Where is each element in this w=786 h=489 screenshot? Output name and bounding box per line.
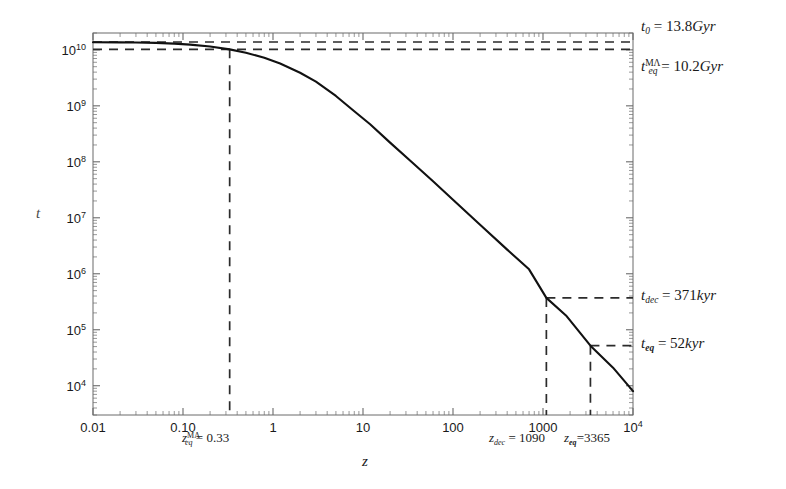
annotation-t0-unit: Gyr: [692, 18, 715, 34]
annotation-z-dec: zdec = 1090: [489, 431, 545, 447]
annotation-z-eq-mlambda: zMΛeq = 0.33: [182, 431, 229, 447]
time-redshift-curve: [93, 42, 633, 391]
annotation-t-dec-subscript: dec: [645, 295, 658, 305]
annotation-z-eq-subscript: eq: [569, 438, 577, 447]
annotation-z-eq-mlambda-value: 0.33: [206, 430, 229, 445]
annotation-t0-subscript: 0: [645, 26, 650, 36]
annotation-t-eq-mlambda: tMΛeq = 10.2Gyr: [641, 59, 723, 77]
frame-rect: [93, 33, 633, 415]
annotation-t-eq-equals: =: [658, 335, 666, 351]
annotation-t-eq-mlambda-equals: =: [661, 58, 669, 74]
x-tick-label: 104: [623, 419, 642, 435]
plot-frame: [93, 33, 633, 415]
annotation-t0-equals: =: [654, 18, 662, 34]
y-axis-title: t: [36, 205, 40, 222]
annotation-z-eq-value: 3365: [584, 430, 610, 445]
x-tick-label: 1: [269, 420, 276, 435]
annotation-z-eq: zeq=3365: [564, 431, 610, 447]
annotation-t0-value: 13.8: [666, 18, 692, 34]
annotation-z-eq-equals: =: [577, 430, 584, 445]
y-tick-label: 1010: [62, 42, 86, 58]
annotation-t-eq-mlambda-value: 10.2: [673, 58, 699, 74]
annotation-z-dec-subscript: dec: [494, 438, 505, 447]
annotation-t-dec-unit: kyr: [697, 287, 716, 303]
annotation-t0: t0 = 13.8Gyr: [641, 19, 715, 37]
x-tick-label: 10: [356, 420, 370, 435]
x-axis-title: z: [361, 453, 368, 469]
axis-tick-labels: 0.010.1011010010001041010109108107106105…: [62, 42, 643, 435]
annotation-guide-lines: [93, 42, 633, 415]
annotation-t-dec: tdec = 371kyr: [641, 288, 716, 306]
annotation-t-eq-mlambda-subscript: eq: [649, 66, 658, 76]
cosmic-time-vs-redshift-figure: 0.010.1011010010001041010109108107106105…: [0, 0, 786, 489]
y-tick-label: 108: [67, 154, 86, 170]
axis-ticks: [93, 33, 633, 415]
annotation-z-dec-equals: =: [508, 430, 515, 445]
annotation-t-eq-subscript: eq: [645, 343, 654, 353]
annotation-z-dec-value: 1090: [519, 430, 545, 445]
annotation-t-dec-equals: =: [662, 287, 670, 303]
y-tick-label: 104: [67, 378, 86, 394]
annotation-t-eq-mlambda-unit: Gyr: [700, 58, 723, 74]
annotation-t-eq-unit: kyr: [685, 335, 704, 351]
annotation-t-dec-value: 371: [674, 287, 697, 303]
annotation-z-eq-mlambda-equals: =: [196, 430, 203, 445]
y-tick-label: 109: [67, 98, 86, 114]
y-tick-label: 107: [67, 210, 86, 226]
x-tick-label: 0.01: [80, 420, 105, 435]
annotation-z-eq-mlambda-subscript: eq: [185, 438, 193, 447]
annotation-t-eq-value: 52: [670, 335, 685, 351]
y-tick-label: 105: [67, 322, 86, 338]
annotation-t-eq: teq = 52kyr: [641, 336, 704, 354]
x-tick-label: 100: [442, 420, 464, 435]
y-tick-label: 106: [67, 266, 86, 282]
